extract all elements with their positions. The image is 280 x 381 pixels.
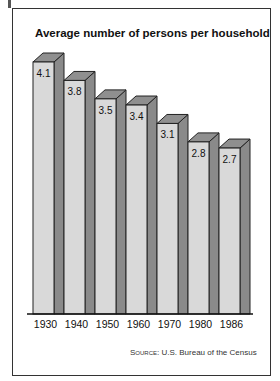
bar: 3.8 [64, 71, 95, 314]
x-tick-label: 1940 [65, 318, 89, 330]
bar-value-label: 3.8 [68, 86, 82, 97]
bar-value-label: 3.1 [161, 129, 175, 140]
bar: 3.1 [157, 114, 188, 314]
bar-value-label: 3.4 [130, 111, 144, 122]
bar-value-label: 4.1 [37, 68, 51, 79]
x-tick-label: 1980 [189, 318, 213, 330]
x-tick-label: 1950 [96, 318, 120, 330]
bar-value-label: 3.5 [99, 105, 113, 116]
x-tick-label: 1986 [220, 318, 244, 330]
bar: 2.8 [188, 133, 219, 314]
bar: 3.4 [126, 96, 157, 314]
bar-chart: 4.119303.819403.519503.419603.119702.819… [0, 0, 280, 381]
source-text: U.S. Bureau of the Census [161, 348, 256, 357]
bar: 4.1 [33, 53, 64, 314]
bar: 2.7 [219, 139, 250, 314]
bar: 3.5 [95, 90, 126, 314]
bar-value-label: 2.8 [192, 148, 206, 159]
x-tick-label: 1960 [127, 318, 151, 330]
bar-value-label: 2.7 [223, 154, 237, 165]
x-tick-label: 1930 [34, 318, 58, 330]
source-label: Source: [130, 348, 159, 357]
x-tick-label: 1970 [158, 318, 182, 330]
source-note: Source: U.S. Bureau of the Census [130, 348, 257, 357]
